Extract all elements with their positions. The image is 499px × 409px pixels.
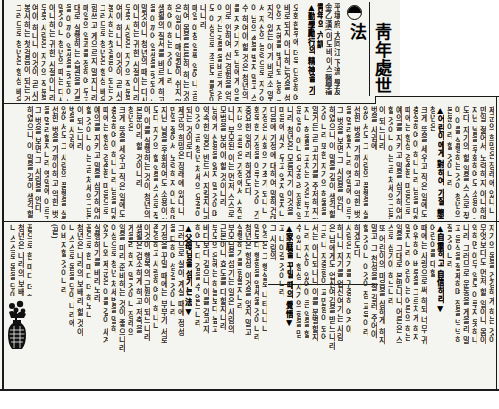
text-tier-2: 제군의 희망은 장래에 있나니 만일 젊어서 노력하지 아니하면 지난 날을 후… — [6, 106, 494, 219]
text-column: 선한 벗을 가까이하고 악한 벗 — [49, 106, 57, 219]
text-column: 이로 인하여 산 경험을 얻나니라 — [222, 4, 230, 101]
text-column: 사람은 자기를 귀중히 여겨야 — [343, 224, 351, 387]
text-column: 때에는 항상 겸손한 마음으로 — [100, 106, 108, 219]
text-column: 생활의 질서를 바르게 하고 시간 — [155, 4, 163, 101]
text-column: 하여야 하는 것이니라 — [164, 4, 172, 101]
text-column: 을 아끼어 일생을 헛되이 보내지 — [63, 4, 71, 101]
text-column: 인의 지혜를 빛내되 능히 그러할 — [273, 4, 281, 101]
text-column: 이 되느니라 — [74, 106, 82, 219]
text-column: 약하면 아무 일도 이루지 못하나 — [469, 224, 477, 387]
text-column: 그 벗을 보면 그 사람을 안다 — [33, 106, 41, 219]
blank-margin-bottom — [0, 391, 499, 409]
text-column: 말지니라 어린이는 어른의 하는 — [402, 224, 410, 387]
text-column: 이 가는 길을 올바르게 걷는 것 — [214, 4, 222, 101]
subheading: ▲父母님을 섬기는 法▼ — [184, 224, 192, 387]
text-column: 자녀의 교육은 가정에서 시작되 — [234, 106, 242, 219]
text-column: 아니하는 귀한 시절이니라 — [130, 4, 138, 101]
text-column: 존경하고 사랑하여야 하나니 — [150, 224, 158, 387]
text-column: 어린이를 대할 — [427, 224, 435, 387]
byline-line: 靑年의 六訓 — [315, 3, 323, 95]
text-column: 그러므로 청년은 항상 배우기를 — [97, 4, 105, 101]
text-column: 다음에 가정에 대하여 말하건대 — [267, 106, 275, 219]
text-column: 하였으니 이 말을 깊이 생각할 — [24, 106, 32, 219]
right-border-rule — [496, 97, 497, 391]
text-column: 실행하기를 바라노라 — [91, 224, 99, 387]
text-column: 을 멀리할지니라 옛말에 이르기를 — [41, 106, 49, 219]
text-column: 아 이를 실행하는 것이 청년의 — [142, 106, 150, 219]
text-column: 은 남에게도 업신여김을 받느니라 — [326, 224, 334, 387]
text-column: 충실하여야 하나니라 남을 대할 — [410, 106, 418, 219]
text-column: 말고 그 천성을 잘 길러 주어야 — [368, 224, 376, 387]
text-column: 니라 청년은 모름지기 이것을 — [284, 106, 292, 219]
tier-divider-rule-2 — [4, 221, 499, 222]
top-right-step-rule — [375, 96, 499, 97]
text-column: 만일 젊어서 노력하지 아니하면 — [477, 106, 485, 219]
subheading: ▲어린이에게 對하여 가질 態度▼ — [435, 106, 443, 219]
text-column: 일을 그대로 본받나니 어른은 스 — [393, 224, 401, 387]
text-column: 봉사하는 첫걸음이 되는 것이라 — [21, 4, 29, 101]
subheading: ▲自重하고 自信하라▼ — [435, 224, 443, 387]
text-column: 가정은 사회의 기초가 되나니 — [259, 106, 267, 219]
text-column: 여야 하나니 이것이 곧 사회에 — [30, 4, 38, 101]
text-column: (끝) — [49, 224, 57, 387]
byline-line: 平壤府 大同江 下流 學友會 — [332, 3, 340, 95]
byline-line: 金乙漢(아도바이스醫學博士) — [323, 3, 331, 95]
text-column: 모범을 보여야 할 것이니라 — [217, 106, 225, 219]
text-column: 게을리 하지 말 것이니 장래의 — [125, 224, 133, 387]
text-column: 화목한 가정을 이루는 것이 가장 — [251, 106, 259, 219]
text-column: 이상으로 청년 처세법을 말하 — [108, 224, 116, 387]
text-column: 아니하는 귀한 시절이니라 — [46, 4, 54, 101]
text-column: 본분이라 할 것이니라 — [444, 106, 452, 219]
text-column: 생활은 검소하게 하고 저축을 — [133, 224, 141, 387]
text-column: 청년은 나라의 보배라 할 것이 — [15, 224, 23, 296]
subheading: ▲勤學勵行의 精神을 가질 것▼ — [306, 3, 314, 95]
text-column: 있어서도 그 사람의 품행을 살펴 — [58, 106, 66, 219]
text-column: 크게 뜻을 세우고 작은 일에도 — [418, 106, 426, 219]
text-column: 이것이 행복의 근원이 되느니라 — [142, 224, 150, 387]
text-column: 힘쓰고 게으르지 말지니라 — [88, 4, 96, 101]
text-column: 고 음식을 절제하며 잠을 넉넉히 — [452, 224, 460, 387]
text-column: 마음에 새겨 두고 잊지 말지니라 — [276, 106, 284, 219]
text-column: 수 있나니 항상 자기의 힘을 믿 — [293, 224, 301, 387]
text-column: 청년은 — [427, 106, 435, 219]
text-column: 니라 자신이 있어야 큰 일을 할 — [301, 224, 309, 387]
text-column: 중요한 일이라 하겠도다 — [242, 106, 250, 219]
text-column: 무릇 사람은 자기의 직분을 다하 — [122, 4, 130, 101]
text-column: 이 되느니라 — [377, 106, 385, 219]
bottom-border-rule — [0, 389, 499, 391]
text-column: 나니 부모된 이는 먼저 스스로 — [226, 106, 234, 219]
text-column: 무엇보다도 먼저 할 일이니 몸이 — [477, 224, 485, 387]
text-column: 할 것이니 이는 곧 처세의 근본 — [83, 106, 91, 219]
text-column: 하나니 자기를 업신여기는 사람 — [335, 224, 343, 387]
text-column: 그 벗을 보면 그 사람을 안다 — [335, 106, 343, 219]
text-column: 바다보다 깊으니 이를 갚고자 — [200, 224, 208, 387]
text-column: 잘 것이니라 — [444, 224, 452, 387]
text-left-strip: 끝으로 한 마디 더 하노니 청년은 나라의 보배라 할 것이 니 스스로 몸을… — [6, 224, 32, 296]
text-column: 니라 그러므로 운동을 게을리 말 — [460, 224, 468, 387]
text-column: 이 남의 손을 빌지 말고 스스로 — [248, 4, 256, 101]
text-column: 가정을 꾸밀 때에는 부부가 서로 — [158, 224, 166, 387]
text-column: 수 하여야 할 것은 청년의 의무 — [239, 4, 247, 101]
text-column: 선한 벗을 가까이하고 악한 벗 — [351, 106, 359, 219]
text-column: 고 나아갈 것이니라 — [276, 224, 284, 387]
text-column: 서는 아니되나니 이를 분별할지 — [309, 224, 317, 387]
article-byline: 平壤府 大同江 下流 學友會 金乙漢(아도바이스醫學博士) 靑年의 六訓 ▲勤學… — [300, 3, 340, 95]
text-column: 있어서도 그 사람의 품행을 살펴 — [360, 106, 368, 219]
text-column: 그 사람의 — [267, 224, 275, 387]
text-column: 만일 젊어서 노력하지 아니하면 — [167, 106, 175, 219]
text-column: 을 아끼어 일생을 헛되이 보내지 — [147, 4, 155, 101]
text-column: 할 것이니 이는 곧 처세의 근본 — [385, 106, 393, 219]
text-column: 남에게 신용을 잃지 말 것이며 — [209, 106, 217, 219]
text-column: 니 스스로 몸을 닦아 나라에 — [7, 224, 15, 296]
text-column: 말것이니 청년의 때는 다시 오지 — [139, 4, 147, 101]
text-column: 도다 자기의 할 일을 스스로 찾 — [150, 106, 158, 219]
text-column: 일을 미리 준비하는 것이 좋으니라 — [116, 224, 124, 387]
vase-flower-illustration-icon — [3, 300, 31, 352]
text-column: 것이니라 또한 자기의 허물을 — [318, 106, 326, 219]
text-column: 였거니와 제군은 이를 깊이 새겨 — [100, 224, 108, 387]
circle-emblem-icon — [347, 5, 362, 20]
text-column: 니 스스로 몸을 닦아 나라에 — [66, 224, 74, 387]
text-column: 도다 자기의 할 일을 스스로 찾 — [460, 106, 468, 219]
text-column: 이바지할 것이니라 — [58, 224, 66, 387]
text-column: 예의를 지키고 말을 삼가하여야 — [393, 106, 401, 219]
